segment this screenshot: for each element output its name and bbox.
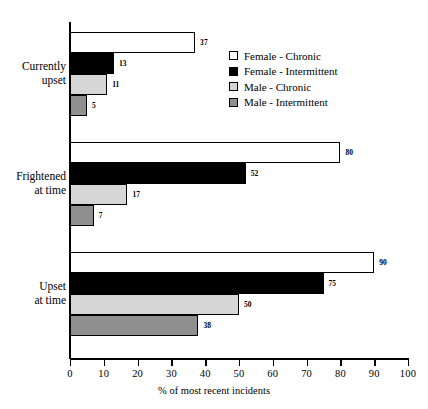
category-label: Currently upset [22,60,66,87]
bar [70,184,127,205]
legend-swatch-icon [229,82,238,91]
legend-item: Male - Chronic [229,79,337,95]
x-tick-mark [408,359,409,366]
legend-item: Male - Intermittent [229,95,337,111]
x-tick-mark [171,359,172,366]
x-tick-mark [70,359,71,366]
x-tick-mark [307,359,308,366]
bar-value-label: 13 [119,53,127,74]
bar [70,95,87,116]
x-tick-mark [104,359,105,366]
bar-value-label: 50 [244,294,252,315]
x-tick-label: 0 [67,368,72,379]
bar-value-label: 75 [329,273,337,294]
x-tick-mark [273,359,274,366]
bar-value-label: 7 [99,205,103,226]
x-tick-mark [205,359,206,366]
bar-value-label: 52 [251,163,259,184]
bar [70,273,324,294]
category-label: Upset at time [34,280,66,307]
x-tick-mark [138,359,139,366]
bar [70,205,94,226]
bar-value-label: 37 [200,32,208,53]
legend-label: Male - Intermittent [244,96,328,108]
bar-value-label: 38 [203,315,211,336]
bar [70,32,195,53]
bar [70,142,340,163]
category-label: Frightened at time [16,170,66,197]
bar-value-label: 17 [132,184,140,205]
bar-value-label: 80 [345,142,353,163]
bar [70,315,198,336]
legend-label: Female - Chronic [244,50,321,62]
x-tick-label: 40 [200,368,211,379]
legend-swatch-icon [229,67,238,76]
x-axis-title: % of most recent incidents [0,385,428,396]
bar [70,74,107,95]
legend-swatch-icon [229,51,238,60]
x-tick-mark [374,359,375,366]
x-tick-label: 30 [166,368,177,379]
x-tick-label: 10 [98,368,109,379]
legend-item: Female - Chronic [229,48,337,64]
bar-value-label: 90 [379,252,387,273]
x-tick-label: 50 [234,368,245,379]
bar-value-label: 5 [92,95,96,116]
bar [70,163,246,184]
x-tick-mark [340,359,341,366]
bar-chart: 0102030405060708090100 37131158052177907… [0,0,428,409]
legend-label: Male - Chronic [244,81,311,93]
legend-swatch-icon [229,98,238,107]
x-tick-label: 100 [400,368,416,379]
bar-value-label: 11 [112,74,119,95]
x-tick-label: 70 [301,368,312,379]
x-tick-label: 90 [369,368,380,379]
x-tick-mark [239,359,240,366]
chart-legend: Female - ChronicFemale - IntermittentMal… [229,48,337,110]
bar [70,53,114,74]
x-tick-label: 20 [132,368,143,379]
legend-item: Female - Intermittent [229,64,337,80]
legend-label: Female - Intermittent [244,65,337,77]
bar [70,252,374,273]
x-tick-label: 60 [267,368,278,379]
bar [70,294,239,315]
x-tick-label: 80 [335,368,346,379]
